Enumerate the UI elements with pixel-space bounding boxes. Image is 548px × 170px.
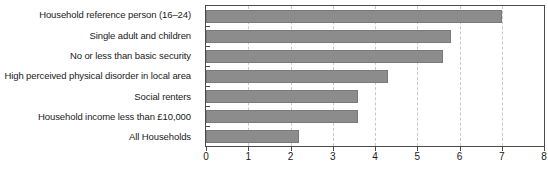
bar-row <box>206 126 544 146</box>
category-label-row: All Households <box>0 127 198 147</box>
bar-row <box>206 6 544 26</box>
value-tick-label: 3 <box>330 152 336 162</box>
bar <box>206 50 443 63</box>
bar-row <box>206 66 544 86</box>
bar <box>206 30 451 43</box>
value-tick-label: 7 <box>499 152 505 162</box>
value-tick-label: 5 <box>414 152 420 162</box>
category-label-row: Household income less than £10,000 <box>0 106 198 126</box>
category-axis-labels: Household reference person (16–24) Singl… <box>0 5 198 147</box>
category-label: Household reference person (16–24) <box>39 10 191 20</box>
value-axis-labels: 012345678 <box>205 152 545 168</box>
bar-row <box>206 106 544 126</box>
bar <box>206 130 299 143</box>
category-label: No or less than basic security <box>70 51 191 61</box>
horizontal-bar-chart: Household reference person (16–24) Singl… <box>0 0 548 170</box>
bar-row <box>206 46 544 66</box>
value-tick-label: 4 <box>372 152 378 162</box>
bar-row <box>206 86 544 106</box>
value-tick-label: 1 <box>245 152 251 162</box>
bar <box>206 10 502 23</box>
bar <box>206 90 358 103</box>
category-label-row: No or less than basic security <box>0 46 198 66</box>
plot-area <box>205 5 545 147</box>
bar <box>206 110 358 123</box>
category-label-row: Single adult and children <box>0 25 198 45</box>
value-tick-label: 2 <box>288 152 294 162</box>
category-label: Single adult and children <box>89 31 191 41</box>
bars-layer <box>206 6 544 146</box>
bar <box>206 70 388 83</box>
category-label: Social renters <box>134 92 191 102</box>
category-label-row: High perceived physical disorder in loca… <box>0 66 198 86</box>
category-label: Household income less than £10,000 <box>38 112 191 122</box>
value-tick-label: 6 <box>457 152 463 162</box>
value-tick-label: 8 <box>541 152 547 162</box>
value-tick-label: 0 <box>203 152 209 162</box>
category-label: High perceived physical disorder in loca… <box>4 71 191 81</box>
category-label: All Households <box>129 132 191 142</box>
category-label-row: Household reference person (16–24) <box>0 5 198 25</box>
category-label-row: Social renters <box>0 86 198 106</box>
bar-row <box>206 26 544 46</box>
